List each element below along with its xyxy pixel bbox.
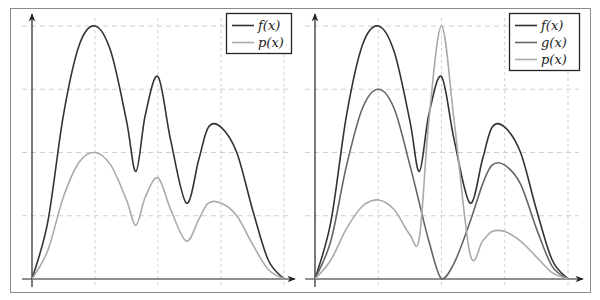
legend-left: f(x)p(x) [227,14,292,54]
legend-right: f(x)g(x)p(x) [510,14,580,71]
legend-label-p: p(x) [258,35,284,50]
legend-label-g: g(x) [541,35,567,50]
outer-frame [11,9,591,293]
legend-label-p: p(x) [541,52,567,67]
legend-label-f: f(x) [257,18,280,33]
figure: f(x)p(x) f(x)g(x)p(x) [0,0,600,300]
legend-label-f: f(x) [540,18,563,33]
